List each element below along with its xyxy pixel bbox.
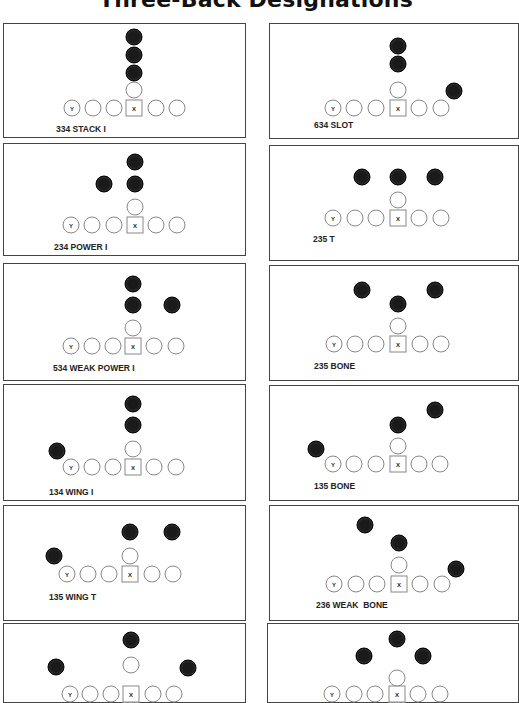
- center-square-icon: X: [125, 459, 142, 476]
- formation-diagram: YX: [3, 623, 246, 703]
- tight-end-circle-icon: Y: [325, 210, 342, 227]
- quarterback-circle-icon: [125, 320, 142, 337]
- quarterback-circle-icon: [126, 82, 143, 99]
- center-square-icon: X: [123, 686, 140, 703]
- lineman-circle-icon: [165, 566, 182, 583]
- quarterback-circle-icon: [127, 199, 144, 216]
- tight-end-circle-icon: Y: [325, 456, 342, 473]
- tight-end-circle-icon: Y: [326, 336, 343, 353]
- formation-diagram: YX134 WING I: [3, 384, 246, 501]
- lineman-circle-icon: [148, 217, 165, 234]
- tight-end-circle-icon: Y: [326, 576, 343, 593]
- center-square-icon: X: [389, 686, 406, 703]
- center-square-icon: X: [390, 336, 407, 353]
- lineman-circle-icon: [433, 336, 450, 353]
- running-back-dot-icon: [126, 65, 143, 82]
- lineman-circle-icon: [168, 338, 185, 355]
- running-back-dot-icon: [164, 524, 181, 541]
- lineman-circle-icon: [106, 217, 123, 234]
- formation-diagram: YX634 SLOT: [269, 23, 519, 139]
- lineman-circle-icon: [411, 100, 428, 117]
- tight-end-circle-icon: Y: [63, 338, 80, 355]
- running-back-dot-icon: [125, 276, 142, 293]
- running-back-dot-icon: [125, 396, 142, 413]
- formation-diagram: YX334 STACK I: [3, 23, 246, 138]
- quarterback-circle-icon: [390, 192, 407, 209]
- running-back-dot-icon: [164, 297, 181, 314]
- lineman-circle-icon: [368, 456, 385, 473]
- lineman-circle-icon: [368, 100, 385, 117]
- running-back-dot-icon: [49, 443, 66, 460]
- lineman-circle-icon: [168, 459, 185, 476]
- lineman-circle-icon: [412, 576, 429, 593]
- lineman-circle-icon: [411, 210, 428, 227]
- quarterback-circle-icon: [390, 318, 407, 335]
- center-square-icon: X: [125, 338, 142, 355]
- formation-label: 334 STACK I: [56, 124, 106, 134]
- lineman-circle-icon: [82, 686, 99, 703]
- running-back-dot-icon: [180, 660, 197, 677]
- running-back-dot-icon: [127, 154, 144, 171]
- running-back-dot-icon: [46, 548, 63, 565]
- lineman-circle-icon: [434, 576, 451, 593]
- lineman-circle-icon: [169, 217, 186, 234]
- lineman-circle-icon: [84, 459, 101, 476]
- lineman-circle-icon: [433, 210, 450, 227]
- lineman-circle-icon: [101, 566, 118, 583]
- lineman-circle-icon: [432, 456, 449, 473]
- running-back-dot-icon: [123, 632, 140, 649]
- lineman-circle-icon: [347, 336, 364, 353]
- running-back-dot-icon: [427, 282, 444, 299]
- center-square-icon: X: [391, 576, 408, 593]
- center-square-icon: X: [390, 210, 407, 227]
- running-back-dot-icon: [427, 402, 444, 419]
- formation-label: 235 BONE: [314, 361, 355, 371]
- lineman-circle-icon: [432, 686, 449, 703]
- lineman-circle-icon: [347, 210, 364, 227]
- quarterback-circle-icon: [390, 82, 407, 99]
- formation-label: 135 BONE: [314, 481, 355, 491]
- running-back-dot-icon: [354, 169, 371, 186]
- lineman-circle-icon: [169, 100, 186, 117]
- running-back-dot-icon: [308, 441, 325, 458]
- tight-end-circle-icon: Y: [325, 100, 342, 117]
- formation-label: 134 WING I: [49, 487, 93, 497]
- center-square-icon: X: [122, 566, 139, 583]
- lineman-circle-icon: [80, 566, 97, 583]
- center-square-icon: X: [390, 456, 407, 473]
- lineman-circle-icon: [368, 210, 385, 227]
- lineman-circle-icon: [346, 456, 363, 473]
- lineman-circle-icon: [146, 459, 163, 476]
- lineman-circle-icon: [411, 456, 428, 473]
- formation-diagram: YX534 WEAK POWER I: [3, 263, 246, 381]
- lineman-circle-icon: [412, 336, 429, 353]
- quarterback-circle-icon: [122, 548, 139, 565]
- lineman-circle-icon: [105, 338, 122, 355]
- running-back-dot-icon: [415, 648, 432, 665]
- lineman-circle-icon: [166, 686, 183, 703]
- formation-diagram: YX235 T: [269, 145, 519, 261]
- lineman-circle-icon: [84, 217, 101, 234]
- formation-label: 234 POWER I: [54, 242, 107, 252]
- running-back-dot-icon: [427, 169, 444, 186]
- formation-diagram: YX135 BONE: [269, 385, 519, 501]
- lineman-circle-icon: [433, 100, 450, 117]
- lineman-circle-icon: [103, 686, 120, 703]
- quarterback-circle-icon: [389, 670, 406, 687]
- running-back-dot-icon: [122, 524, 139, 541]
- tight-end-circle-icon: Y: [63, 217, 80, 234]
- tight-end-circle-icon: Y: [62, 686, 79, 703]
- formation-label: 236 WEAK BONE: [316, 600, 388, 610]
- running-back-dot-icon: [446, 83, 463, 100]
- formation-label: 534 WEAK POWER I: [53, 363, 135, 373]
- lineman-circle-icon: [84, 338, 101, 355]
- tight-end-circle-icon: Y: [63, 459, 80, 476]
- tight-end-circle-icon: Y: [324, 686, 341, 703]
- lineman-circle-icon: [367, 686, 384, 703]
- lineman-circle-icon: [106, 100, 123, 117]
- tight-end-circle-icon: Y: [64, 100, 81, 117]
- lineman-circle-icon: [410, 686, 427, 703]
- running-back-dot-icon: [126, 47, 143, 64]
- running-back-dot-icon: [354, 282, 371, 299]
- lineman-circle-icon: [346, 686, 363, 703]
